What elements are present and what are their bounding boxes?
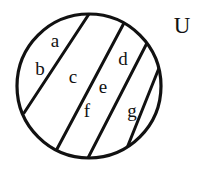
region-label-c: c xyxy=(69,66,77,87)
region-label-d: d xyxy=(118,48,128,69)
set-diagram-canvas: a b c d e f g U xyxy=(0,0,204,172)
region-label-a: a xyxy=(51,30,60,51)
region-label-b: b xyxy=(35,58,45,79)
region-label-f: f xyxy=(84,100,91,121)
region-label-e: e xyxy=(99,76,107,97)
set-diagram-figure: a b c d e f g U xyxy=(0,0,204,172)
region-label-g: g xyxy=(127,100,137,121)
universal-set-label: U xyxy=(174,13,191,38)
